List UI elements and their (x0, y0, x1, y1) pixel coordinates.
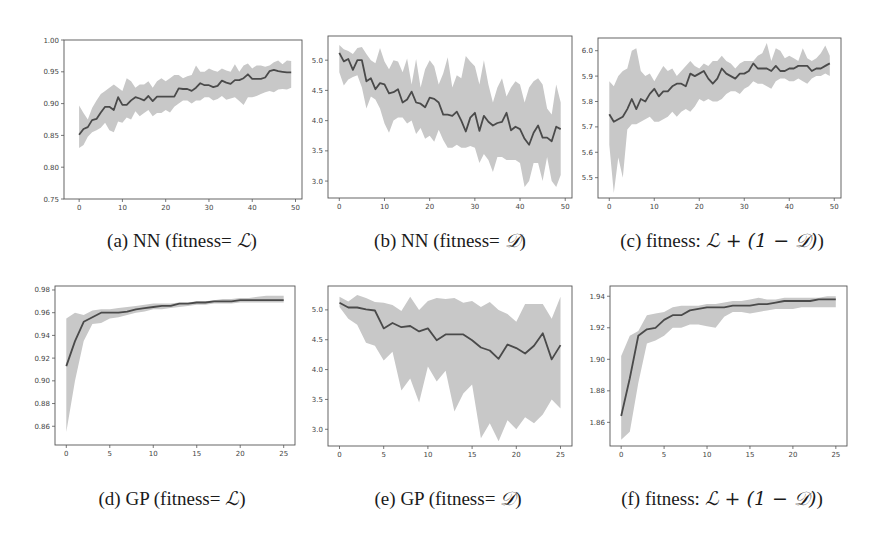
caption-f: (f) fitness: ℒ + (1 − 𝒟)) (592, 487, 852, 510)
caption-a-math: ℒ (237, 229, 251, 251)
caption-a-suffix: ) (251, 230, 257, 251)
caption-d-suffix: ) (239, 488, 245, 509)
y-tick-label: 1.92 (589, 324, 605, 332)
caption-b-prefix: (b) NN (fitness= (374, 230, 505, 251)
caption-b: (b) NN (fitness= 𝒟) (330, 229, 570, 252)
x-tick-label: 10 (703, 451, 712, 459)
x-tick-label: 20 (788, 451, 797, 459)
x-tick-label: 15 (746, 451, 755, 459)
caption-b-math: 𝒟 (505, 229, 520, 251)
caption-a: (a) NN (fitness= ℒ) (62, 229, 302, 252)
x-tick-label: 25 (831, 451, 840, 459)
x-tick-label: 0 (619, 451, 623, 459)
caption-f-suffix: ) (816, 488, 822, 509)
caption-c-suffix: ) (818, 230, 824, 251)
caption-d-math: ℒ (225, 487, 239, 509)
caption-f-math: ℒ + (1 − 𝒟) (705, 487, 817, 509)
subplot-f: 05101520251.861.881.901.921.94 (0, 0, 880, 533)
caption-c-math: ℒ + (1 − 𝒟) (706, 229, 818, 251)
y-tick-label: 1.90 (589, 356, 605, 364)
caption-d-prefix: (d) GP (fitness= (99, 488, 226, 509)
caption-b-suffix: ) (520, 230, 526, 251)
y-tick-label: 1.94 (589, 293, 605, 301)
caption-c-prefix: (c) fitness: (620, 230, 705, 251)
caption-f-prefix: (f) fitness: (621, 488, 704, 509)
caption-e-math: 𝒟 (500, 487, 515, 509)
caption-e-prefix: (e) GP (fitness= (375, 488, 501, 509)
caption-e-suffix: ) (515, 488, 521, 509)
x-tick-label: 5 (662, 451, 666, 459)
std-band (621, 296, 836, 440)
chart-svg: 05101520251.861.881.901.921.94 (0, 0, 880, 533)
y-tick-label: 1.88 (589, 387, 605, 395)
y-tick-label: 1.86 (589, 419, 605, 427)
caption-d: (d) GP (fitness= ℒ) (52, 487, 292, 510)
caption-a-prefix: (a) NN (fitness= (107, 230, 236, 251)
caption-e: (e) GP (fitness= 𝒟) (328, 487, 568, 510)
caption-c: (c) fitness: ℒ + (1 − 𝒟)) (592, 229, 852, 252)
